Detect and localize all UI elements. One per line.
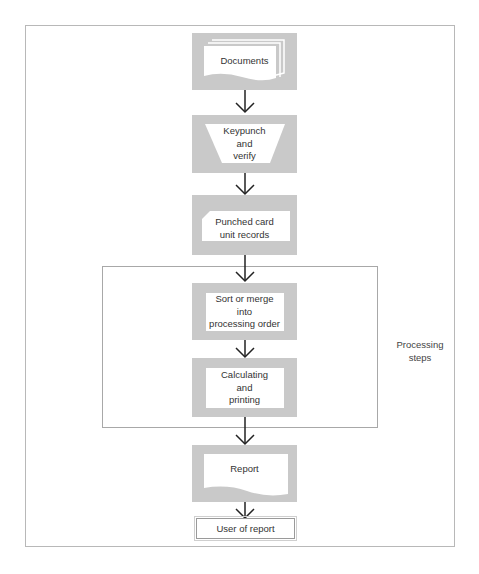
punched-card-label: Punched card unit records	[192, 216, 297, 241]
arrow-down-icon	[234, 417, 256, 446]
punched-card-node: Punched card unit records	[192, 195, 297, 255]
keypunch-node: Keypunch and verify	[192, 115, 297, 173]
arrow-down-icon	[234, 90, 256, 115]
keypunch-label: Keypunch and verify	[192, 125, 297, 163]
arrow-down-icon	[234, 340, 256, 359]
processing-steps-label: Processing steps	[378, 338, 462, 364]
report-label: Report	[192, 463, 297, 476]
calculating-node: Calculating and printing	[192, 358, 297, 417]
sort-node: Sort or merge into processing order	[192, 283, 297, 340]
arrow-down-icon	[234, 255, 256, 283]
report-node: Report	[192, 445, 297, 502]
arrow-down-icon	[234, 173, 256, 196]
documents-node: Documents	[192, 33, 297, 90]
sort-label: Sort or merge into processing order	[192, 293, 297, 331]
calculating-label: Calculating and printing	[192, 369, 297, 407]
documents-label: Documents	[192, 55, 297, 68]
user-of-report-node: User of report	[196, 518, 295, 539]
